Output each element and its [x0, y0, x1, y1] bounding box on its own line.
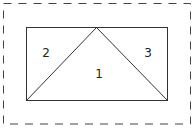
background	[0, 0, 196, 130]
region-label-3: 3	[144, 46, 152, 60]
geometric-diagram: 1 2 3	[0, 0, 196, 130]
region-label-1: 1	[95, 67, 103, 81]
region-label-2: 2	[42, 46, 50, 60]
